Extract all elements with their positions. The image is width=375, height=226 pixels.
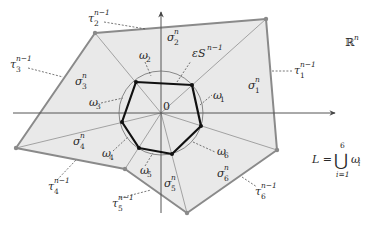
svg-text:⋃: ⋃ xyxy=(334,150,348,170)
svg-text:6: 6 xyxy=(261,192,266,201)
leader-tau-2 xyxy=(104,22,146,29)
vertex-dot xyxy=(275,148,279,152)
label-tau-3: τ n−1 3 xyxy=(10,54,32,74)
svg-text:i=1: i=1 xyxy=(336,170,349,179)
svg-text:2: 2 xyxy=(94,19,99,28)
svg-text:1: 1 xyxy=(220,95,225,104)
svg-text:n−1: n−1 xyxy=(16,54,32,63)
label-origin: 0 xyxy=(163,100,170,113)
label-tau-1: τ n−1 1 xyxy=(294,60,316,80)
svg-text:6: 6 xyxy=(224,174,229,183)
label-tau-4: τ n−1 4 xyxy=(48,176,70,196)
svg-text:n: n xyxy=(224,163,229,172)
svg-text:3: 3 xyxy=(16,65,21,74)
svg-text:n−1: n−1 xyxy=(207,43,223,52)
svg-text:3: 3 xyxy=(82,82,87,91)
svg-text:2: 2 xyxy=(146,55,151,64)
svg-text:5: 5 xyxy=(147,170,152,179)
svg-text:5: 5 xyxy=(171,184,176,193)
svg-text:n: n xyxy=(171,173,176,182)
svg-text:n: n xyxy=(80,131,85,140)
vertex-dot xyxy=(123,167,127,171)
svg-text:εS: εS xyxy=(192,47,206,60)
svg-text:6: 6 xyxy=(224,151,229,160)
svg-text:6: 6 xyxy=(340,141,345,150)
vertex-dot xyxy=(199,124,203,128)
svg-text:3: 3 xyxy=(96,102,101,111)
svg-text:n: n xyxy=(82,71,87,80)
svg-text:n: n xyxy=(255,75,260,84)
svg-text:4: 4 xyxy=(109,153,114,162)
label-space: ℝ n xyxy=(345,33,359,49)
vertex-dot xyxy=(190,83,194,87)
svg-text:n: n xyxy=(354,33,359,42)
cone-decomposition-diagram: σ n 1 σ n 2 σ n 3 σ n 4 σ n 5 σ n 6 xyxy=(0,0,375,226)
svg-text:n−1: n−1 xyxy=(54,176,70,185)
label-tau-2: τ n−1 2 xyxy=(88,8,110,28)
svg-text:5: 5 xyxy=(118,204,123,213)
svg-text:4: 4 xyxy=(80,142,85,151)
union-formula: L = ⋃ 6 i=1 ω i xyxy=(311,141,361,179)
svg-text:1: 1 xyxy=(255,86,260,95)
label-tau-6: τ n−1 6 xyxy=(255,181,277,201)
svg-text:n: n xyxy=(174,27,179,36)
vertex-dot xyxy=(185,211,189,215)
svg-text:n−1: n−1 xyxy=(300,60,316,69)
vertex-dot xyxy=(264,17,268,21)
leader-tau-3 xyxy=(28,68,63,77)
vertex-dot xyxy=(93,31,97,35)
svg-text:n−1: n−1 xyxy=(261,181,277,190)
vertex-dot xyxy=(120,120,124,124)
vertex-dot xyxy=(137,146,141,150)
svg-text:n−1: n−1 xyxy=(118,193,134,202)
svg-text:2: 2 xyxy=(174,38,179,47)
svg-text:L =: L = xyxy=(311,153,332,166)
svg-text:i: i xyxy=(358,159,361,168)
vertex-dot xyxy=(170,152,174,156)
svg-text:1: 1 xyxy=(300,71,305,80)
label-tau-5: τ n−1 5 xyxy=(112,193,134,213)
svg-text:4: 4 xyxy=(54,187,59,196)
vertex-dot xyxy=(134,80,138,84)
svg-text:n−1: n−1 xyxy=(94,8,110,17)
vertex-dot xyxy=(14,146,18,150)
